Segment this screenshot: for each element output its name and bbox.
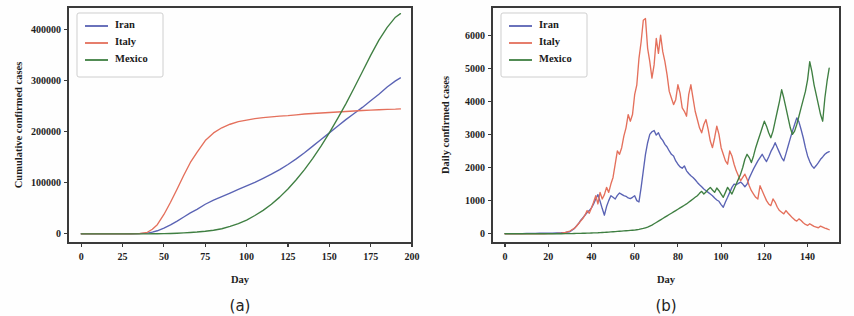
legend-label-mexico: Mexico <box>115 53 148 64</box>
x-tick-label: 80 <box>673 251 683 262</box>
legend-label-italy: Italy <box>539 36 561 47</box>
x-tick-label: 100 <box>714 251 729 262</box>
y-tick-label: 0 <box>56 228 61 239</box>
x-tick-label: 150 <box>322 251 337 262</box>
x-tick-label: 20 <box>543 251 553 262</box>
x-tick-label: 25 <box>118 251 128 262</box>
y-tick-label: 0 <box>480 228 485 239</box>
legend: IranItalyMexico <box>77 13 163 77</box>
x-tick-label: 0 <box>502 251 507 262</box>
y-tick-label: 1000 <box>465 195 485 206</box>
y-tick-label: 400000 <box>31 24 61 35</box>
y-tick-label: 3000 <box>465 129 485 140</box>
x-tick-label: 100 <box>239 251 254 262</box>
legend-label-iran: Iran <box>539 19 559 30</box>
legend-label-iran: Iran <box>115 19 135 30</box>
figure-container: 0255075100125150175200010000020000030000… <box>0 0 854 316</box>
chart-panel-b: 0204060801001201400100020003000400050006… <box>427 0 854 316</box>
x-tick-label: 50 <box>159 251 169 262</box>
legend-label-mexico: Mexico <box>539 53 572 64</box>
x-tick-label: 200 <box>405 251 420 262</box>
x-tick-label: 120 <box>757 251 772 262</box>
y-tick-label: 2000 <box>465 162 485 173</box>
x-tick-label: 140 <box>800 251 815 262</box>
panel-caption-a: (a) <box>230 297 251 315</box>
x-tick-label: 60 <box>630 251 640 262</box>
y-tick-label: 4000 <box>465 96 485 107</box>
x-tick-label: 0 <box>79 251 84 262</box>
y-tick-label: 300000 <box>31 75 61 86</box>
x-axis-title: Day <box>657 274 676 285</box>
y-tick-label: 5000 <box>465 63 485 74</box>
plot-area-b: 0204060801001201400100020003000400050006… <box>465 7 840 262</box>
x-tick-label: 125 <box>280 251 295 262</box>
series-line-italy <box>81 109 400 234</box>
legend: IranItalyMexico <box>501 13 587 77</box>
series-line-iran <box>81 78 400 234</box>
y-tick-label: 100000 <box>31 177 61 188</box>
y-tick-label: 6000 <box>465 30 485 41</box>
chart-svg-b: 0204060801001201400100020003000400050006… <box>427 0 854 316</box>
x-tick-label: 175 <box>363 251 378 262</box>
legend-label-italy: Italy <box>115 36 137 47</box>
x-tick-label: 75 <box>200 251 210 262</box>
x-tick-label: 40 <box>586 251 596 262</box>
y-axis-title: Cumulative confirmed cases <box>13 62 24 189</box>
chart-svg-a: 0255075100125150175200010000020000030000… <box>0 0 427 316</box>
y-tick-label: 200000 <box>31 126 61 137</box>
y-axis-title: Daily confirmed cases <box>440 76 451 174</box>
plot-area-a: 0255075100125150175200010000020000030000… <box>31 7 420 262</box>
chart-panel-a: 0255075100125150175200010000020000030000… <box>0 0 427 316</box>
panel-caption-b: (b) <box>655 297 676 315</box>
x-axis-title: Day <box>231 274 250 285</box>
